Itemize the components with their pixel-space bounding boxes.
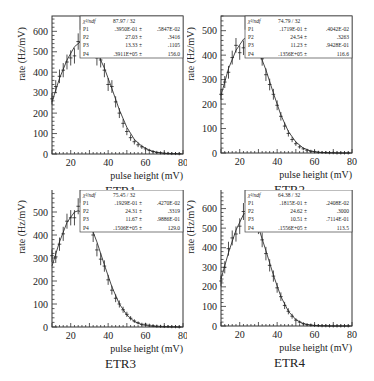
chi2-value: 64.38 / 32 bbox=[278, 192, 300, 198]
param-value: .1929E-01 ± bbox=[115, 200, 142, 206]
param-value: .3950E-01 ± bbox=[115, 26, 142, 32]
param-error: 156.0 bbox=[168, 51, 181, 57]
param-name: P1 bbox=[248, 26, 254, 32]
param-name: P3 bbox=[83, 42, 89, 48]
param-name: P2 bbox=[83, 208, 89, 214]
fit-stats-box: χ²/ndf75.45 / 32P1.1929E-01 ±.4270E-02P2… bbox=[80, 190, 183, 232]
data-point bbox=[346, 325, 350, 328]
y-tick-label: 200 bbox=[202, 99, 217, 110]
data-point bbox=[331, 325, 335, 328]
param-error: .4042E-02 bbox=[326, 26, 349, 32]
y-tick-label: 100 bbox=[33, 299, 48, 310]
data-point bbox=[114, 294, 118, 302]
chi2-label: χ²/ndf bbox=[247, 192, 262, 198]
param-error: 116.6 bbox=[337, 51, 349, 57]
data-point bbox=[166, 325, 170, 328]
data-point bbox=[302, 147, 306, 150]
data-point bbox=[320, 151, 324, 154]
x-tick-label: 40 bbox=[103, 330, 113, 341]
chart-title: ETR4 bbox=[274, 355, 306, 370]
chi2-label: χ²/ndf bbox=[82, 18, 97, 24]
param-name: P2 bbox=[248, 208, 254, 214]
param-error: .1105 bbox=[168, 42, 180, 48]
x-tick-label: 40 bbox=[272, 156, 282, 167]
data-point bbox=[335, 152, 339, 155]
data-point bbox=[76, 33, 80, 49]
data-point bbox=[234, 226, 238, 241]
data-point bbox=[287, 130, 291, 136]
y-tick-label: 500 bbox=[33, 207, 48, 218]
x-tick-label: 80 bbox=[178, 157, 187, 168]
y-tick-label: 600 bbox=[33, 26, 48, 37]
data-point bbox=[328, 151, 332, 154]
param-value: 27.03 ± bbox=[125, 34, 142, 40]
param-name: P4 bbox=[83, 51, 89, 57]
data-point bbox=[264, 247, 268, 260]
data-point bbox=[114, 96, 118, 107]
y-tick-label: 300 bbox=[202, 262, 217, 273]
param-name: P2 bbox=[248, 34, 254, 40]
data-point bbox=[50, 93, 54, 105]
param-value: 10.51 ± bbox=[290, 216, 307, 222]
param-name: P4 bbox=[83, 225, 89, 231]
y-tick-label: 400 bbox=[33, 67, 48, 78]
data-point bbox=[294, 142, 298, 146]
data-point bbox=[283, 302, 287, 309]
param-error: .4270E-02 bbox=[157, 200, 180, 206]
param-value: .3911E+05 ± bbox=[113, 51, 142, 57]
data-point bbox=[219, 276, 223, 287]
param-name: P1 bbox=[83, 200, 89, 206]
param-value: 13.33 ± bbox=[125, 42, 142, 48]
x-axis-label: pulse height (mV) bbox=[110, 170, 183, 182]
data-point bbox=[155, 151, 159, 154]
data-point bbox=[174, 152, 178, 155]
y-tick-label: 300 bbox=[33, 87, 48, 98]
y-tick-label: 500 bbox=[202, 223, 217, 234]
data-point bbox=[227, 242, 231, 256]
param-error: 129.0 bbox=[168, 225, 181, 231]
chart-etr3: 010020030040050020406080pulse height (mV… bbox=[0, 190, 187, 381]
data-point bbox=[335, 325, 339, 328]
data-point bbox=[275, 283, 279, 293]
data-point bbox=[343, 152, 347, 155]
data-point bbox=[283, 122, 287, 129]
data-point bbox=[69, 50, 73, 65]
y-tick-label: 100 bbox=[33, 128, 48, 139]
y-tick-label: 0 bbox=[43, 149, 48, 160]
fit-stats-box: χ²/ndf64.38 / 32P1.1815E-01 ±.2408E-02P2… bbox=[245, 190, 352, 232]
x-tick-label: 40 bbox=[272, 329, 282, 340]
y-tick-label: 600 bbox=[202, 203, 217, 214]
y-tick-label: 400 bbox=[202, 50, 217, 61]
y-tick-label: 300 bbox=[33, 253, 48, 264]
y-tick-label: 200 bbox=[33, 276, 48, 287]
y-tick-label: 0 bbox=[212, 148, 217, 159]
x-axis-label: pulse height (mV) bbox=[279, 169, 352, 181]
y-axis-label: rate (Hz/mV) bbox=[187, 27, 197, 81]
data-point bbox=[227, 66, 231, 79]
param-value: 24.54 ± bbox=[290, 34, 307, 40]
x-tick-label: 20 bbox=[235, 156, 245, 167]
x-tick-label: 20 bbox=[66, 157, 76, 168]
y-tick-label: 100 bbox=[202, 301, 217, 312]
data-point bbox=[339, 152, 343, 155]
chi2-label: χ²/ndf bbox=[247, 18, 262, 24]
data-point bbox=[174, 325, 178, 328]
data-point bbox=[50, 250, 54, 262]
data-point bbox=[133, 139, 137, 144]
y-axis-label: rate (Hz/mV) bbox=[16, 200, 28, 254]
data-point bbox=[328, 325, 332, 328]
chart-etr1: 010020030040050060020406080pulse height … bbox=[0, 0, 187, 190]
data-point bbox=[343, 325, 347, 328]
param-value: .1356E+05 ± bbox=[278, 51, 307, 57]
param-error: .9428E-01 bbox=[326, 42, 349, 48]
param-name: P1 bbox=[83, 26, 89, 32]
y-axis-label: rate (Hz/mV) bbox=[16, 27, 28, 81]
x-axis-label: pulse height (mV) bbox=[110, 343, 183, 355]
chart-etr2: 010020030040050020406080pulse height (mV… bbox=[187, 0, 374, 190]
data-point bbox=[121, 119, 125, 128]
x-tick-label: 80 bbox=[347, 329, 357, 340]
data-point bbox=[320, 324, 324, 327]
data-point bbox=[65, 55, 69, 70]
data-point bbox=[151, 150, 155, 153]
data-point bbox=[331, 151, 335, 154]
